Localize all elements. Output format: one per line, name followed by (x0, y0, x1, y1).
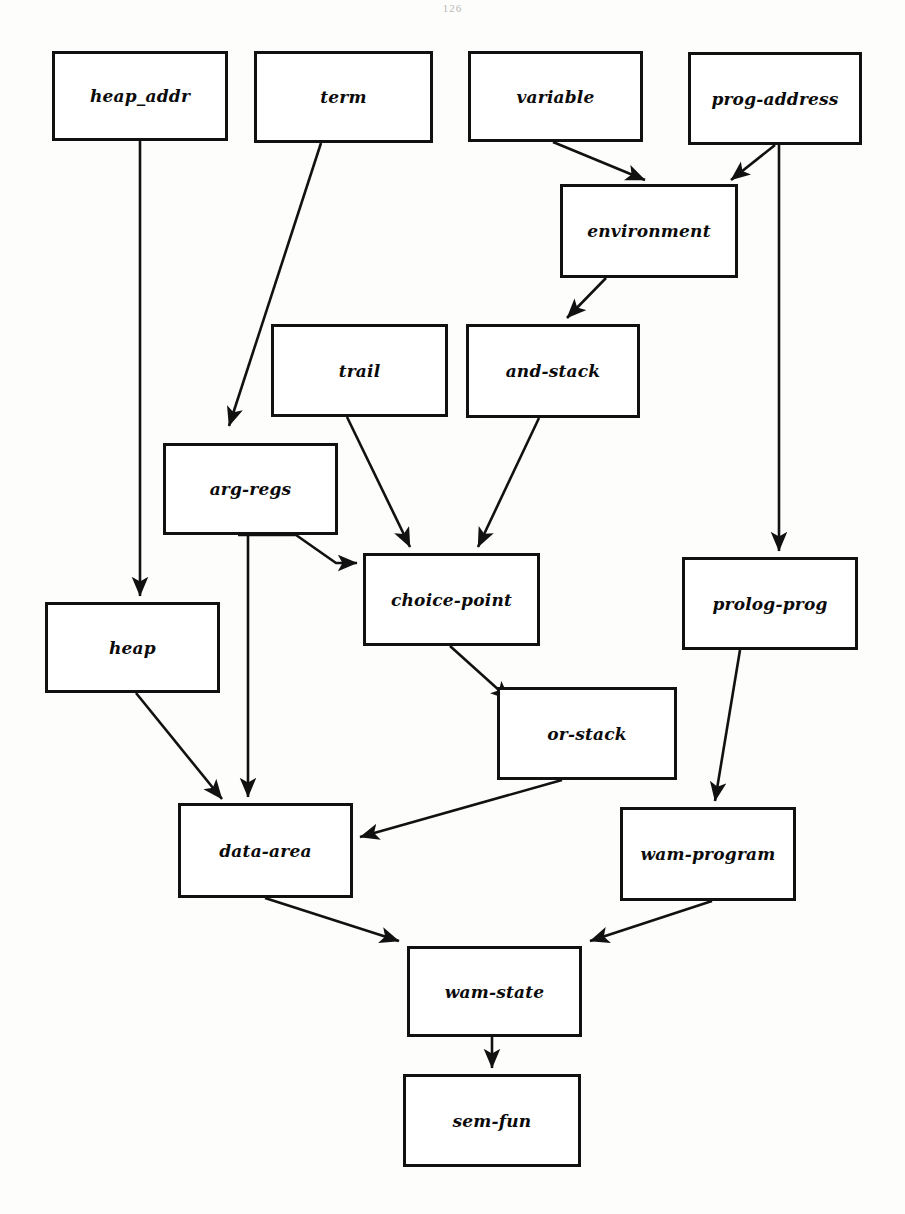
node-label: heap (109, 638, 156, 658)
edge-and-stack-to-choice-point (478, 418, 539, 547)
node-label: wam-program (641, 844, 776, 864)
node-environment[interactable]: environment (560, 184, 738, 278)
edge-prog-address-to-environment (731, 145, 775, 180)
node-sem-fun[interactable]: sem-fun (403, 1074, 581, 1167)
diagram-page: 126 heap_addr term variable prog-address… (0, 0, 905, 1214)
node-label: term (320, 87, 366, 107)
node-term[interactable]: term (254, 51, 433, 143)
node-label: environment (587, 221, 710, 241)
node-label: heap_addr (90, 86, 190, 106)
node-variable[interactable]: variable (468, 51, 643, 142)
node-label: and-stack (506, 361, 601, 381)
node-label: trail (339, 361, 381, 381)
node-prog-address[interactable]: prog-address (688, 52, 862, 145)
edge-prolog-prog-to-wam-program (715, 650, 740, 801)
node-trail[interactable]: trail (271, 324, 448, 417)
edge-trail-to-choice-point (347, 417, 410, 547)
node-label: or-stack (547, 724, 627, 744)
node-label: prog-address (711, 89, 838, 109)
node-label: variable (516, 87, 594, 107)
edge-variable-to-environment (553, 142, 645, 180)
node-label: choice-point (391, 590, 512, 610)
node-data-area[interactable]: data-area (178, 803, 353, 898)
node-choice-point[interactable]: choice-point (363, 553, 540, 646)
node-arg-regs[interactable]: arg-regs (163, 443, 338, 535)
node-label: sem-fun (453, 1111, 532, 1131)
edge-environment-to-and-stack (567, 278, 606, 318)
node-heap[interactable]: heap (45, 602, 220, 693)
node-label: arg-regs (210, 479, 292, 499)
node-prolog-prog[interactable]: prolog-prog (682, 557, 858, 650)
node-or-stack[interactable]: or-stack (497, 687, 677, 780)
node-label: prolog-prog (712, 594, 827, 614)
edge-wam-program-to-wam-state (590, 901, 712, 941)
edge-arg-regs-to-choice-point (238, 535, 357, 563)
node-heap_addr[interactable]: heap_addr (52, 51, 228, 141)
edge-or-stack-to-data-area (360, 780, 562, 837)
edge-heap-to-data-area (136, 693, 222, 799)
node-wam-program[interactable]: wam-program (620, 807, 796, 901)
node-and-stack[interactable]: and-stack (466, 324, 640, 418)
edge-data-area-to-wam-state (265, 898, 399, 941)
node-wam-state[interactable]: wam-state (407, 946, 582, 1037)
node-label: data-area (219, 841, 311, 861)
node-label: wam-state (445, 982, 545, 1002)
